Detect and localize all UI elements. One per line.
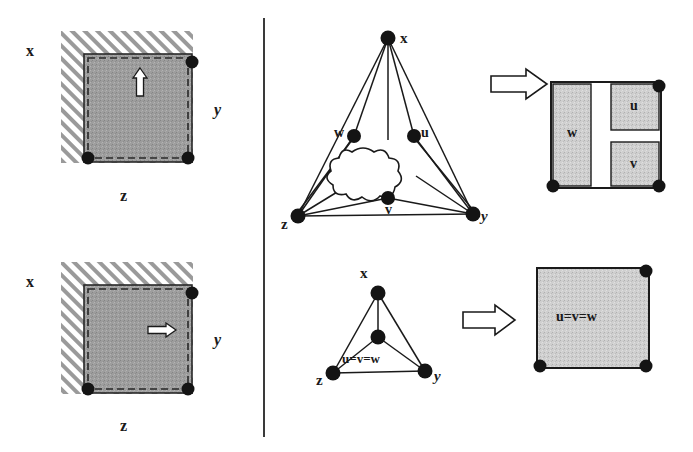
label-y-top-left: y xyxy=(214,102,221,118)
graph-node-z xyxy=(326,366,341,381)
corner-dot-bottom-left xyxy=(82,152,95,165)
node-label-v-graph: v xyxy=(385,203,392,217)
region-label-merged: u=v=w xyxy=(556,310,597,324)
corner-dot-bottom-right xyxy=(182,152,195,165)
graph-node-u xyxy=(407,129,421,143)
region-label-u: u xyxy=(630,99,638,113)
label-z-bottom-left: z xyxy=(120,418,127,434)
corner-dot-top-right xyxy=(186,287,199,300)
solid-square-bottom-left xyxy=(84,285,192,393)
graph-node-w xyxy=(347,129,361,143)
panel-square-horizontal-growth xyxy=(61,262,199,396)
panel-dissection-expanded xyxy=(547,80,666,193)
corner-dot-bottom-left xyxy=(547,180,560,193)
corner-dot-top-right xyxy=(653,80,666,93)
corner-dot-bottom-right xyxy=(640,360,653,373)
label-x-top-left: x xyxy=(26,43,34,59)
label-y-bottom-left: y xyxy=(214,332,221,348)
region-label-w: w xyxy=(567,126,577,140)
node-label-x-graph: x xyxy=(400,31,408,46)
graph-node-x xyxy=(371,286,386,301)
corner-dot-top-right xyxy=(640,265,653,278)
graph-node-x xyxy=(381,31,396,46)
corner-dot-bottom-right xyxy=(182,383,195,396)
graph-node-y xyxy=(418,364,433,379)
label-x-bottom-left: x xyxy=(26,274,34,290)
corner-dot-bottom-left xyxy=(82,383,95,396)
node-label-z-graph: z xyxy=(281,217,288,232)
node-label-merged-graph2: u=v=w xyxy=(342,352,380,365)
node-label-w-graph: w xyxy=(334,126,344,140)
node-label-y-graph: y xyxy=(481,209,488,224)
panel-square-vertical-growth xyxy=(61,31,199,165)
node-label-y-graph2: y xyxy=(434,369,441,384)
corner-dot-bottom-left xyxy=(534,360,547,373)
corner-dot-top-right xyxy=(186,56,199,69)
graph-node-y xyxy=(466,207,481,222)
graph-node-merged xyxy=(371,330,386,345)
graph-node-z xyxy=(291,209,306,224)
corner-dot-bottom-right xyxy=(653,180,666,193)
region-label-v: v xyxy=(630,157,637,171)
node-label-x-graph2: x xyxy=(360,266,368,281)
figure-canvas xyxy=(0,0,693,452)
node-label-z-graph2: z xyxy=(316,373,323,388)
node-label-u-graph: u xyxy=(421,126,429,140)
label-z-top-left: z xyxy=(120,188,127,204)
